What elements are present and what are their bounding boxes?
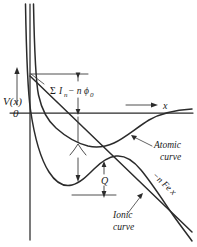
energy-dimension-upper-arrow [76, 73, 81, 82]
origin-label: 0 [13, 107, 19, 119]
heat-of-adsorption-label: Q [101, 175, 109, 186]
arrow-right-icon [126, 102, 158, 107]
ionic-curve-label-line1: Ionic [112, 210, 133, 220]
work-function-subscript: 0 [90, 91, 94, 99]
potential-energy-diagram: V(x) 0 x Σ I n − n ϕ 0 Q Atomic curve Io… [0, 0, 197, 247]
atomic-curve-label: Atomic curve [153, 140, 182, 162]
atomic-curve-path [34, 4, 193, 147]
ionization-symbol: I [58, 86, 63, 96]
ionic-curve-label-line2: curve [113, 222, 134, 232]
atomic-curve-label-line1: Atomic [153, 140, 182, 150]
minus-n-term: − n [68, 86, 82, 96]
ionic-curve-label: Ionic curve [112, 210, 134, 232]
x-axis-label: x [162, 100, 168, 111]
atomic-curve-leader [131, 135, 152, 146]
work-function-symbol: ϕ [84, 86, 89, 96]
diagram-canvas: V(x) 0 x Σ I n − n ϕ 0 Q Atomic curve Io… [0, 0, 197, 247]
sum-symbol: Σ [50, 85, 56, 96]
energy-term-label: Σ I n − n ϕ 0 [50, 85, 94, 99]
field-term-label: −n Fe x [151, 170, 179, 197]
atomic-curve-label-line2: curve [160, 152, 181, 162]
